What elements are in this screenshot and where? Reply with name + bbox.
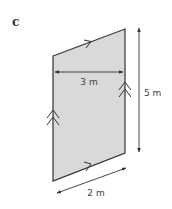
part-label: c <box>12 15 19 29</box>
height-label: 5 m <box>144 88 161 98</box>
diagram-canvas: c 3 m 5 m 2 m <box>0 0 172 209</box>
slant-label: 2 m <box>87 188 104 198</box>
parallelogram-shape <box>53 29 125 181</box>
width-label: 3 m <box>80 77 97 87</box>
parallelogram-diagram: c 3 m 5 m 2 m <box>0 0 172 209</box>
